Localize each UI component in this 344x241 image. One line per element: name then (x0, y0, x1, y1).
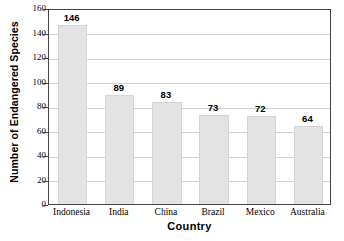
bar-value-label: 146 (47, 13, 96, 23)
bar-value-label: 83 (141, 90, 190, 100)
bar-value-label: 73 (188, 103, 237, 113)
y-axis-tick-label: 40 (6, 151, 46, 160)
bar[interactable] (294, 126, 323, 204)
bar-value-label: 64 (283, 114, 332, 124)
x-axis-title: Country (48, 220, 331, 232)
bar-value-label: 89 (94, 83, 143, 93)
gridline (49, 157, 330, 158)
bar-value-label: 72 (236, 104, 285, 114)
y-axis-tick-label: 140 (6, 29, 46, 38)
y-axis-tick-label: 160 (6, 4, 46, 13)
y-axis-tick-mark (43, 205, 48, 206)
y-axis-tick-group: 160140120100806040200 (0, 0, 46, 241)
y-axis-tick-label: 100 (6, 78, 46, 87)
bar[interactable] (58, 25, 87, 204)
y-axis-tick-label: 120 (6, 53, 46, 62)
bar[interactable] (105, 95, 134, 204)
bar[interactable] (152, 102, 181, 204)
y-axis-tick-label: 60 (6, 127, 46, 136)
y-axis-tick-label: 20 (6, 176, 46, 185)
gridline (49, 132, 330, 133)
gridline (49, 83, 330, 84)
gridline (49, 59, 330, 60)
gridline (49, 181, 330, 182)
x-axis-tick-label: Australia (278, 207, 337, 218)
y-axis-tick-label: 0 (6, 200, 46, 209)
bar[interactable] (199, 115, 228, 204)
bar-chart: Number of Endangered Species 16014012010… (0, 0, 344, 241)
bar[interactable] (247, 116, 276, 204)
gridline (49, 34, 330, 35)
y-axis-tick-label: 80 (6, 102, 46, 111)
